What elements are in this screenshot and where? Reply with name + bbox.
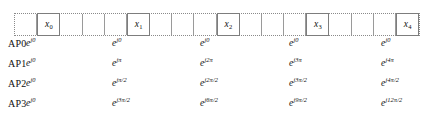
subcarrier-label: x0 [45,20,52,30]
subcarrier-cell-empty [60,14,82,35]
ap-rows: AP0ej0ej0ej0ej0ej0AP1ej0ejπej2πej3πej4πA… [0,38,434,118]
phase-value: ej0 [289,38,298,49]
subcarrier-cell-empty [150,14,172,35]
subcarrier-label: x2 [224,20,231,30]
phase-value: ej0 [26,58,35,69]
phase-value: ej2π [200,58,213,69]
ap-row-label: AP2 [8,78,26,89]
phase-value: ej0 [112,38,121,49]
subcarrier-grid-wrapper: x0x1x2x3x4 [14,13,420,36]
subcarrier-label: x4 [404,20,411,30]
phase-value: ej0 [200,38,209,49]
phase-value: ej0 [26,38,35,49]
phase-value: ej3π [289,58,302,69]
subcarrier-cell-empty [352,14,374,35]
phase-value: ej3π/2 [112,98,130,109]
subcarrier-cell-empty [262,14,284,35]
ap-row: AP1ej0ejπej2πej3πej4π [0,58,434,78]
phase-value: ej0 [381,38,390,49]
phase-value: ej2π/2 [200,78,218,89]
ap-row: AP0ej0ej0ej0ej0ej0 [0,38,434,58]
subcarrier-cell-pilot-0: x0 [37,13,60,36]
ap-row: AP3ej0ej3π/2ej6π/2ej9π/2ej12π/2 [0,98,434,118]
phase-value: ej3π/2 [289,78,307,89]
phase-value: ej0 [26,78,35,89]
phase-value: ej12π/2 [381,98,402,109]
ap-row-label: AP1 [8,58,26,69]
phase-value: ejπ [112,58,121,69]
subcarrier-cell-pilot-3: x3 [306,13,329,36]
subcarrier-cell-empty [83,14,105,35]
subcarrier-cell-pilot-4: x4 [396,13,419,36]
phase-value: ej6π/2 [200,98,218,109]
subcarrier-cell-empty [15,14,37,35]
phase-value: ejπ/2 [112,78,127,89]
subcarrier-cell-pilot-1: x1 [127,13,150,36]
subcarrier-cell-empty [105,14,127,35]
subcarrier-label: x3 [314,20,321,30]
phase-value: ej4π/2 [381,78,399,89]
subcarrier-cell-empty [194,14,216,35]
subcarrier-cell-pilot-2: x2 [217,13,240,36]
phase-value: ej4π [381,58,394,69]
ap-row-label: AP3 [8,98,26,109]
phase-value: ej0 [26,98,35,109]
subcarrier-cell-empty [172,14,194,35]
subcarrier-cell-empty [284,14,306,35]
ap-row-label: AP0 [8,38,26,49]
phase-table-figure: x0x1x2x3x4 AP0ej0ej0ej0ej0ej0AP1ej0ejπej… [0,0,434,130]
ap-row: AP2ej0ejπ/2ej2π/2ej3π/2ej4π/2 [0,78,434,98]
subcarrier-cell-empty [240,14,262,35]
subcarrier-cell-empty [374,14,396,35]
subcarrier-cell-empty [329,14,351,35]
subcarrier-grid: x0x1x2x3x4 [14,13,420,36]
subcarrier-label: x1 [135,20,142,30]
phase-value: ej9π/2 [289,98,307,109]
